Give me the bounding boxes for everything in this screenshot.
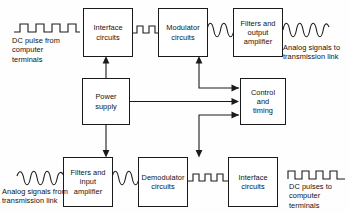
caption-line: terminals — [289, 201, 332, 210]
sine-wave-input-icon — [17, 169, 64, 187]
power-to-filters-input-connector — [103, 125, 110, 158]
sine-wave-output-icon — [283, 21, 329, 39]
block-label-line: Modulator — [166, 23, 199, 32]
block-label-line: Filters and — [70, 168, 105, 177]
block-label-line: input — [80, 177, 96, 186]
caption-line: transmission link — [2, 196, 68, 205]
square-wave-output-icon — [288, 169, 345, 181]
caption-line: computer — [12, 45, 60, 54]
block-power-supply[interactable]: Power supply — [82, 78, 130, 125]
block-control-and-timing[interactable]: Control and timing — [240, 78, 286, 125]
block-label-line: amplifier — [244, 37, 272, 46]
block-modulator-circuits[interactable]: Modulator circuits — [158, 8, 208, 57]
square-wave-demodulator-to-interface-icon — [188, 172, 229, 183]
square-wave-interface-to-modulator-icon — [133, 24, 159, 35]
block-label-line: amplifier — [74, 187, 102, 196]
block-diagram: Interface circuits Modulator circuits Fi… — [0, 0, 349, 213]
caption-line: transmission link — [283, 52, 340, 61]
control-to-demodulator-connector — [196, 112, 239, 158]
block-demodulator-circuits[interactable]: Demodulator circuits — [138, 157, 188, 207]
caption-line: Analog signals from — [2, 187, 68, 196]
caption-analog-signals-to-transmission-link: Analog signals to transmission link — [283, 43, 340, 62]
caption-line: DC pulse from — [12, 36, 60, 45]
block-label-line: output — [248, 28, 269, 37]
block-label-line: timing — [253, 106, 273, 115]
block-interface-circuits-rx[interactable]: Interface circuits — [228, 157, 278, 207]
caption-line: terminals — [12, 55, 60, 64]
block-label-line: Demodulator — [142, 173, 185, 182]
caption-line: computer — [289, 191, 332, 200]
caption-line: Analog signals to — [283, 43, 340, 52]
caption-analog-signals-from-transmission-link: Analog signals from transmission link — [2, 187, 68, 206]
sine-wave-modulator-to-filters-icon — [207, 21, 234, 39]
block-label-line: Control — [251, 88, 275, 97]
block-label-line: Interface — [238, 173, 267, 182]
caption-dc-pulse-from-computer-terminals: DC pulse from computer terminals — [12, 36, 60, 64]
square-wave-input-icon — [14, 22, 80, 34]
power-to-interface-tx-connector — [103, 56, 110, 78]
block-label-line: supply — [95, 102, 117, 111]
block-filters-and-output-amplifier[interactable]: Filters and output amplifier — [233, 8, 283, 57]
block-label-line: Power — [95, 92, 116, 101]
block-label-line: circuits — [151, 182, 174, 191]
control-to-modulator-connector — [196, 56, 239, 91]
block-label-line: circuits — [171, 33, 194, 42]
block-filters-and-input-amplifier[interactable]: Filters and input amplifier — [63, 157, 113, 207]
block-interface-circuits-tx[interactable]: Interface circuits — [83, 8, 133, 57]
caption-dc-pulses-to-computer-terminals: DC pulses to computer terminals — [289, 182, 332, 210]
block-label-line: and — [257, 97, 269, 106]
sine-wave-filters-to-demodulator-icon — [112, 169, 139, 187]
block-label-line: Filters and — [240, 19, 275, 28]
block-label-line: circuits — [241, 182, 264, 191]
block-label-line: circuits — [96, 33, 119, 42]
caption-line: DC pulses to — [289, 182, 332, 191]
power-to-control-connector — [130, 98, 239, 105]
block-label-line: Interface — [93, 23, 122, 32]
